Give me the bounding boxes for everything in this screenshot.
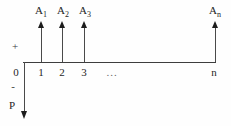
annuity-label-3: A3 [79, 4, 91, 19]
up-arrow-stem-n [215, 27, 216, 62]
annuity-label-3-base: A [79, 4, 87, 16]
up-arrowhead-icon-n [212, 21, 218, 28]
tick-label-3: 3 [81, 66, 87, 78]
down-arrowhead-icon-p [21, 111, 27, 119]
plus-sign: + [12, 40, 18, 52]
annuity-label-1: A1 [35, 4, 47, 19]
up-arrow-stem-2 [62, 27, 63, 62]
tick-label-1: 1 [38, 66, 44, 78]
down-arrow-stem-p [24, 62, 25, 112]
tick-label-2: 2 [59, 66, 65, 78]
up-arrow-stem-3 [84, 27, 85, 62]
annuity-label-3-sub: 3 [87, 10, 91, 19]
annuity-label-1-base: A [35, 4, 43, 16]
cash-flow-diagram: A1 A2 A3 An + - 0 1 2 3 ... n P [0, 0, 231, 126]
timeline-axis [23, 62, 216, 63]
tick-label-0: 0 [13, 66, 19, 78]
annuity-label-n-base: A [209, 4, 217, 16]
annuity-label-n-sub: n [217, 10, 221, 19]
tick-label-n: n [211, 66, 217, 78]
annuity-label-2-base: A [57, 4, 65, 16]
present-value-label: P [9, 99, 15, 111]
annuity-label-n: An [209, 4, 221, 19]
minus-sign: - [11, 80, 15, 92]
up-arrowhead-icon-1 [38, 21, 44, 28]
timeline-ellipsis: ... [106, 66, 117, 78]
up-arrowhead-icon-3 [81, 21, 87, 28]
annuity-label-2: A2 [57, 4, 69, 19]
up-arrow-stem-1 [41, 27, 42, 62]
annuity-label-1-sub: 1 [43, 10, 47, 19]
annuity-label-2-sub: 2 [65, 10, 69, 19]
up-arrowhead-icon-2 [59, 21, 65, 28]
